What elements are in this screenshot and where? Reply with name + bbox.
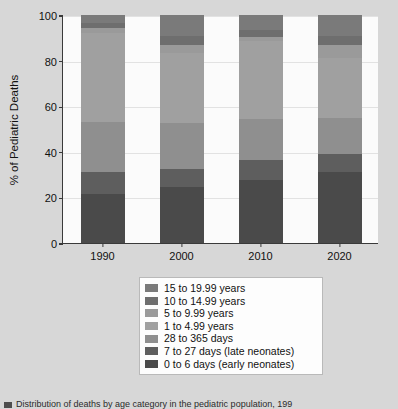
bar-segment (239, 30, 283, 37)
bar-segment (318, 154, 362, 172)
legend-item-label: 0 to 6 days (early neonates) (164, 359, 294, 370)
legend-item[interactable]: 15 to 19.99 years (145, 282, 317, 295)
bar-segment (160, 53, 204, 124)
legend-swatch-icon (145, 309, 158, 317)
legend-item-label: 28 to 365 days (164, 333, 233, 344)
legend-swatch-icon (145, 322, 158, 330)
bar-segment (81, 194, 125, 243)
bar-segment (239, 15, 283, 30)
y-axis-tick-label: 20 (45, 192, 57, 204)
legend-swatch-icon (145, 360, 158, 368)
chart-legend: 15 to 19.99 years10 to 14.99 years5 to 9… (139, 277, 323, 375)
bar-segment (160, 15, 204, 36)
bar-segment (160, 123, 204, 169)
x-axis-tick-label: 2010 (248, 250, 272, 262)
bar-2020 (318, 15, 362, 243)
bar-segment (160, 36, 204, 45)
legend-item-label: 15 to 19.99 years (164, 283, 245, 294)
legend-item[interactable]: 5 to 9.99 years (145, 307, 317, 320)
legend-item[interactable]: 7 to 27 days (late neonates) (145, 345, 317, 358)
bar-segment (239, 180, 283, 243)
y-axis-tick-label: 0 (51, 238, 57, 250)
x-axis-tick-label: 2000 (169, 250, 193, 262)
plot-area: 0204060801001990200020102020 (62, 16, 378, 244)
x-axis-tick-mark (260, 243, 261, 247)
bar-1990 (81, 15, 125, 243)
y-axis-tick-mark (59, 198, 63, 199)
bar-segment (318, 58, 362, 117)
bar-segment (160, 169, 204, 187)
bar-segment (239, 119, 283, 160)
bar-2000 (160, 15, 204, 243)
bar-segment (81, 33, 125, 122)
y-axis-tick-mark (59, 107, 63, 108)
bar-segment (318, 45, 362, 59)
y-axis-tick-label: 60 (45, 101, 57, 113)
bar-segment (160, 45, 204, 53)
y-axis-tick-label: 80 (45, 56, 57, 68)
caption-text: Distribution of deaths by age category i… (16, 399, 292, 409)
y-axis-tick-mark (59, 152, 63, 153)
legend-item[interactable]: 10 to 14.99 years (145, 295, 317, 308)
bar-segment (318, 36, 362, 45)
legend-swatch-icon (145, 284, 158, 292)
y-axis-tick-mark (59, 15, 63, 16)
legend-item-label: 10 to 14.99 years (164, 296, 245, 307)
bar-segment (81, 122, 125, 172)
x-axis-tick-label: 2020 (327, 250, 351, 262)
legend-item[interactable]: 28 to 365 days (145, 332, 317, 345)
legend-swatch-icon (145, 335, 158, 343)
bar-segment (81, 15, 125, 23)
bar-segment (239, 41, 283, 119)
legend-swatch-icon (145, 297, 158, 305)
y-axis-tick-label: 40 (45, 147, 57, 159)
x-axis-tick-mark (339, 243, 340, 247)
caption-marker-icon (4, 402, 12, 408)
y-axis-tick-label: 100 (39, 10, 57, 22)
figure-caption: Distribution of deaths by age category i… (4, 399, 396, 409)
bar-segment (318, 118, 362, 154)
bar-segment (318, 15, 362, 36)
x-axis-tick-label: 1990 (90, 250, 114, 262)
legend-item-label: 7 to 27 days (late neonates) (164, 346, 294, 357)
y-axis-tick-mark (59, 243, 63, 244)
legend-item-label: 5 to 9.99 years (164, 308, 233, 319)
bar-2010 (239, 15, 283, 243)
y-axis-label: % of Pediatric Deaths (8, 16, 26, 244)
legend-swatch-icon (145, 347, 158, 355)
x-axis-tick-mark (102, 243, 103, 247)
bar-segment (81, 172, 125, 194)
legend-item[interactable]: 1 to 4.99 years (145, 320, 317, 333)
y-axis-tick-mark (59, 61, 63, 62)
bar-segment (239, 160, 283, 181)
legend-item[interactable]: 0 to 6 days (early neonates) (145, 358, 317, 371)
x-axis-tick-mark (181, 243, 182, 247)
bar-segment (318, 172, 362, 243)
bar-segment (160, 187, 204, 243)
legend-item-label: 1 to 4.99 years (164, 321, 233, 332)
